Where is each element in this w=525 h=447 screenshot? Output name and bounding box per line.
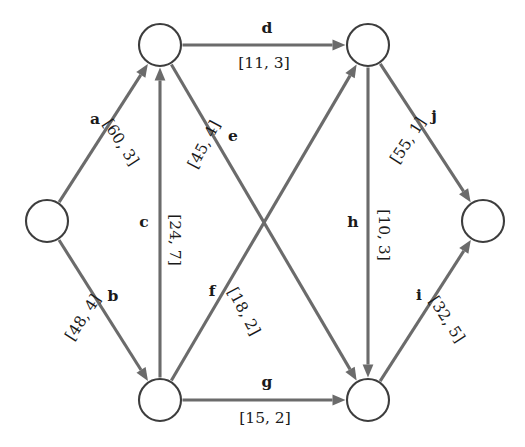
edge-d (183, 40, 346, 51)
edge-b (59, 240, 148, 381)
edge-id-label-a: a (90, 109, 100, 128)
edge-g (183, 395, 346, 406)
edge-id-label-b: b (108, 286, 119, 305)
edge-j (380, 64, 470, 202)
arrowhead-c (155, 68, 166, 81)
edge-i (380, 240, 471, 381)
arrowhead-d (333, 40, 346, 51)
edge-id-label-g: g (262, 372, 273, 391)
top-right-node[interactable] (347, 24, 389, 66)
edge-line-f (171, 76, 350, 381)
edge-capacity-label-g: [15, 2] (239, 409, 291, 427)
edge-h (363, 68, 374, 378)
edge-id-label-i: i (416, 285, 422, 304)
network-graph-canvas: a[60, 3]b[48, 4]c[24, 7]d[11, 3]e[45, 4]… (0, 0, 525, 447)
edges-layer (59, 40, 471, 406)
edge-id-label-j: j (429, 106, 437, 125)
edge-capacity-label-d: [11, 3] (238, 54, 290, 72)
edge-capacity-label-b: [48, 4] (62, 291, 105, 344)
edge-id-label-h: h (347, 212, 358, 231)
top-left-node[interactable] (139, 24, 181, 66)
arrowhead-g (333, 395, 346, 406)
edge-id-label-f: f (209, 281, 217, 300)
arrowhead-h (363, 365, 374, 378)
edge-id-label-d: d (262, 18, 273, 37)
edge-capacity-label-i: [32, 5] (425, 293, 468, 346)
bottom-left-node[interactable] (139, 379, 181, 421)
edge-id-label-e: e (228, 126, 238, 145)
left-node[interactable] (26, 200, 68, 242)
edge-capacity-label-c: [24, 7] (166, 214, 184, 266)
arrowhead-j (459, 188, 471, 202)
bottom-right-node[interactable] (347, 379, 389, 421)
edge-capacity-label-f: [18, 2] (224, 285, 264, 339)
edge-id-label-c: c (139, 212, 148, 231)
edge-c (155, 68, 166, 378)
edge-a (59, 64, 148, 202)
edge-capacity-label-a: [60, 3] (99, 116, 142, 169)
right-node[interactable] (462, 200, 504, 242)
edge-capacity-label-j: [55, 1] (387, 114, 430, 167)
edge-capacity-label-h: [10, 3] (375, 209, 393, 261)
